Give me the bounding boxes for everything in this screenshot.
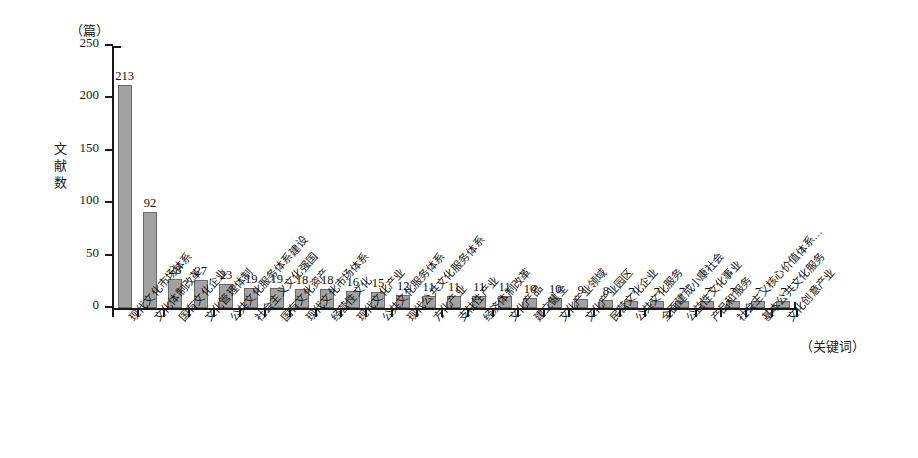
- y-axis-tick-label: 200: [80, 87, 100, 103]
- y-axis-tick-label: 50: [86, 245, 99, 261]
- y-axis-tick: 150: [105, 149, 113, 151]
- bar-chart-figure: （篇） 文献数 050100150200250 2139228272319191…: [0, 0, 918, 458]
- bar: 213: [118, 85, 132, 308]
- y-axis-tick-label: 0: [93, 297, 100, 313]
- x-axis-category-labels: 现代文化市场体系文化体制改革国有文化企业文化管理体制公共文化服务体系建设社会主义…: [112, 316, 918, 446]
- y-axis-tick: 250: [105, 44, 113, 46]
- x-axis-title: （关键词）: [800, 336, 865, 355]
- y-axis-tick: 50: [105, 254, 113, 256]
- bar-value-label: 213: [115, 69, 134, 84]
- y-axis-tick-label: 100: [80, 192, 100, 208]
- y-axis-tick-label: 250: [80, 35, 100, 51]
- y-axis-title: 文献数: [52, 140, 68, 191]
- y-axis-tick: 200: [105, 96, 113, 98]
- y-axis-tick: 100: [105, 201, 113, 203]
- bar-value-label: 92: [144, 196, 157, 211]
- y-axis-tick-label: 150: [80, 140, 100, 156]
- y-axis-top-cap: [112, 46, 121, 48]
- y-axis-line: [112, 46, 114, 310]
- y-axis-tick: 0: [105, 306, 113, 308]
